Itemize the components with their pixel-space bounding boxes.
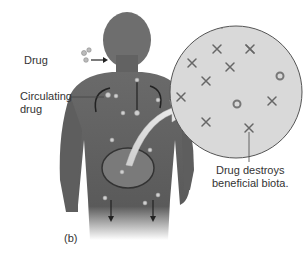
circulating-drug-label-line2: drug xyxy=(20,103,42,116)
human-body-figure xyxy=(60,12,194,240)
drug-destroys-label-line1: Drug destroys xyxy=(216,164,284,177)
drug-destroys-label-line2: beneficial biota. xyxy=(212,177,288,190)
microbiota-inset xyxy=(170,26,302,158)
drug-particles xyxy=(82,48,92,63)
circulating-drug-label-line1: Circulating xyxy=(20,90,72,103)
drug-label: Drug xyxy=(24,54,48,67)
panel-label: (b) xyxy=(64,232,77,245)
diagram-canvas xyxy=(0,0,308,258)
